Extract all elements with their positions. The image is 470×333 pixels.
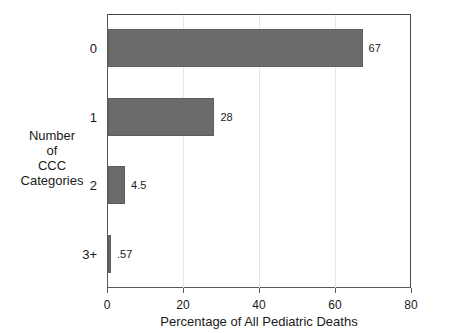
bar-value-label-1: 28: [220, 111, 232, 123]
bar-chart-figure: Number of CCC Categories 020406080 06712…: [0, 0, 470, 333]
x-axis-title: Percentage of All Pediatric Deaths: [107, 314, 411, 329]
category-label-holder: 1: [48, 98, 103, 136]
x-tick-40: [259, 288, 260, 293]
x-tick-0: [107, 288, 108, 293]
x-tick-label-60: 60: [328, 298, 341, 312]
y-tick-label-1: 1: [90, 109, 97, 124]
bar-1[interactable]: [108, 98, 214, 136]
x-tick-80: [411, 288, 412, 293]
bar-value-label-3plus: .57: [117, 248, 132, 260]
y-axis-title-line-2: of: [8, 143, 96, 158]
x-tick-label-0: 0: [104, 298, 111, 312]
bar-value-label-0: 67: [369, 42, 381, 54]
x-tick-label-20: 20: [176, 298, 189, 312]
x-tick-label-40: 40: [252, 298, 265, 312]
x-tick-label-80: 80: [404, 298, 417, 312]
category-label-holder: 0: [48, 29, 103, 67]
x-tick-20: [183, 288, 184, 293]
bar-value-label-2: 4.5: [131, 179, 146, 191]
bar-3plus[interactable]: [108, 235, 111, 273]
category-label-holder: 2: [48, 166, 103, 204]
y-tick-label-0: 0: [90, 41, 97, 56]
bar-2[interactable]: [108, 166, 125, 204]
bar-row: 067: [108, 29, 412, 67]
bar-row: 24.5: [108, 166, 412, 204]
plot-area: 020406080 06712824.53+.57: [107, 14, 411, 288]
bar-0[interactable]: [108, 29, 363, 67]
bar-row: 3+.57: [108, 235, 412, 273]
y-tick-label-2: 2: [90, 178, 97, 193]
bar-row: 128: [108, 98, 412, 136]
x-tick-60: [335, 288, 336, 293]
category-label-holder: 3+: [48, 235, 103, 273]
y-tick-label-3plus: 3+: [82, 246, 97, 261]
